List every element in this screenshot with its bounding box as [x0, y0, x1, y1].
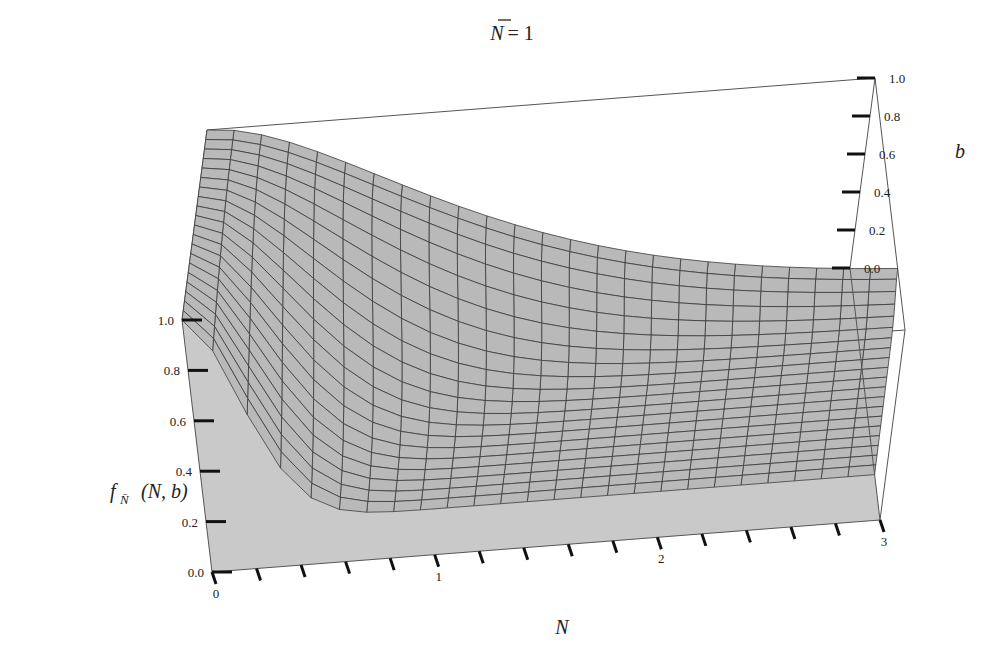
svg-text:1.0: 1.0 — [889, 71, 905, 86]
svg-text:2: 2 — [658, 551, 665, 566]
svg-text:N̄: N̄ — [119, 492, 130, 507]
svg-text:0.4: 0.4 — [874, 185, 891, 200]
svg-text:1: 1 — [435, 569, 442, 584]
svg-text:3: 3 — [881, 534, 888, 549]
svg-text:f: f — [110, 480, 118, 503]
svg-text:0.4: 0.4 — [176, 464, 193, 479]
svg-text:1.0: 1.0 — [158, 313, 174, 328]
svg-text:0.2: 0.2 — [182, 515, 198, 530]
svg-text:0.0: 0.0 — [188, 565, 204, 580]
z-axis-label: f N̄ (N, b) — [110, 480, 188, 507]
surface-plot: 01230.00.20.40.60.81.00.00.20.40.60.81.0… — [0, 0, 1005, 659]
x-axis-label: N — [554, 616, 570, 638]
y-axis-label: b — [955, 140, 965, 162]
svg-text:0.6: 0.6 — [170, 414, 187, 429]
surface-mesh — [182, 130, 898, 572]
svg-text:0.2: 0.2 — [869, 223, 885, 238]
svg-text:0.8: 0.8 — [884, 109, 900, 124]
svg-text:(N, b): (N, b) — [141, 480, 188, 503]
svg-text:0.6: 0.6 — [879, 147, 896, 162]
svg-text:0.0: 0.0 — [864, 261, 880, 276]
chart-title: N= 1 — [489, 22, 534, 44]
svg-text:0.8: 0.8 — [164, 363, 180, 378]
svg-text:0: 0 — [213, 586, 220, 601]
